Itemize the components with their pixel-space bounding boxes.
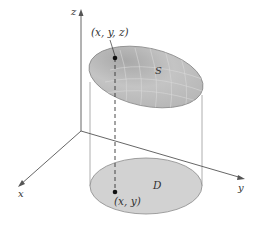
surface-projection-diagram: z x y (x, y, z) S D (x, y) <box>0 0 259 228</box>
surface-point <box>113 56 118 61</box>
surface-label: S <box>155 65 162 76</box>
z-axis-arrow-icon <box>79 9 84 16</box>
x-axis <box>20 131 81 185</box>
region-point-label: (x, y) <box>114 195 141 207</box>
y-axis-arrow-icon <box>237 175 245 180</box>
region-d <box>90 158 202 214</box>
region-label: D <box>152 179 162 191</box>
z-axis-label: z <box>70 6 77 17</box>
x-axis-label: x <box>18 188 24 199</box>
region-point <box>113 190 118 195</box>
y-axis-label: y <box>237 182 244 193</box>
surface-s <box>83 37 209 118</box>
surface-point-label: (x, y, z) <box>91 26 129 38</box>
